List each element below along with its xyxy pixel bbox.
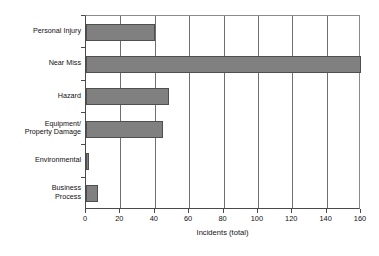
x-axis-tick xyxy=(257,209,258,213)
gridline xyxy=(361,16,362,208)
x-axis-tick-label: 140 xyxy=(311,214,341,223)
bar-row xyxy=(86,185,361,202)
y-axis-label: Near Miss xyxy=(49,59,81,68)
x-axis-tick-label: 120 xyxy=(276,214,306,223)
gridline xyxy=(292,16,293,208)
gridline xyxy=(155,16,156,208)
gridline xyxy=(189,16,190,208)
bar-row xyxy=(86,56,361,73)
bar xyxy=(86,121,163,138)
x-axis-tick xyxy=(188,209,189,213)
x-axis-tick-label: 40 xyxy=(139,214,169,223)
bar xyxy=(86,185,98,202)
bar xyxy=(86,56,361,73)
y-axis-label: Equipment/ Property Damage xyxy=(25,120,81,137)
bar-chart: Personal InjuryNear MissHazardEquipment/… xyxy=(0,0,379,256)
x-axis-tick-label: 160 xyxy=(345,214,375,223)
x-axis-tick-label: 0 xyxy=(70,214,100,223)
gridline xyxy=(224,16,225,208)
y-axis-tick xyxy=(81,15,85,16)
bar xyxy=(86,88,169,105)
gridline xyxy=(327,16,328,208)
y-axis-tick xyxy=(81,144,85,145)
x-axis-tick xyxy=(291,209,292,213)
x-axis-tick xyxy=(85,209,86,213)
x-axis-tick-label: 20 xyxy=(104,214,134,223)
bar xyxy=(86,24,155,41)
gridline xyxy=(258,16,259,208)
y-axis-tick xyxy=(81,47,85,48)
gridline xyxy=(120,16,121,208)
bar-row xyxy=(86,121,361,138)
y-axis-label: Business Process xyxy=(52,184,81,201)
x-axis-tick-label: 100 xyxy=(242,214,272,223)
x-axis-tick xyxy=(119,209,120,213)
x-axis-title: Incidents (total) xyxy=(85,228,360,237)
y-axis-tick xyxy=(81,80,85,81)
y-axis-label: Personal Injury xyxy=(33,27,81,36)
y-axis-tick xyxy=(81,112,85,113)
x-axis-tick-label: 60 xyxy=(173,214,203,223)
y-axis-label: Hazard xyxy=(58,92,81,101)
x-axis-tick-label: 80 xyxy=(208,214,238,223)
y-axis-label: Environmental xyxy=(35,156,81,165)
y-axis-tick xyxy=(81,177,85,178)
plot-area xyxy=(85,15,360,209)
x-axis-tick xyxy=(326,209,327,213)
x-axis-tick xyxy=(223,209,224,213)
bar-row xyxy=(86,153,361,170)
bar-row xyxy=(86,24,361,41)
x-axis-tick xyxy=(154,209,155,213)
gridline xyxy=(86,16,87,208)
bar xyxy=(86,153,89,170)
x-axis-tick xyxy=(360,209,361,213)
bar-row xyxy=(86,88,361,105)
